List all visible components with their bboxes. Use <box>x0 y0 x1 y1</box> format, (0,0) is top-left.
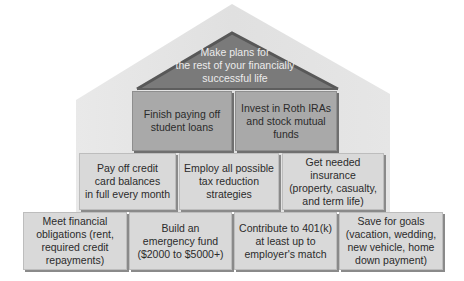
box-line: new vehicle, home <box>346 241 436 254</box>
box-line: Meet financial <box>36 215 114 228</box>
box-line: Invest in Roth IRAs <box>241 102 331 115</box>
box-line: Finish paying off <box>144 108 220 121</box>
roof-line: the rest of your financially <box>160 59 310 72</box>
box-roth-ira: Invest in Roth IRAs and stock mutual fun… <box>235 91 337 151</box>
box-save-for-goals: Save for goals (vacation, wedding, new v… <box>339 212 443 270</box>
roof-line: successful life <box>160 72 310 85</box>
box-financial-obligations: Meet financial obligations (rent, requir… <box>23 212 127 270</box>
box-credit-cards: Pay off credit card balances in full eve… <box>79 153 176 210</box>
box-line: student loans <box>144 121 220 134</box>
box-line: Save for goals <box>346 215 436 228</box>
box-insurance: Get needed insurance (property, casualty… <box>282 153 384 210</box>
box-401k: Contribute to 401(k) at least up to empl… <box>234 212 337 270</box>
box-line: Employ all possible <box>184 162 274 175</box>
box-line: employer's match <box>239 248 332 261</box>
box-tax-reduction: Employ all possible tax reduction strate… <box>179 153 279 210</box>
box-line: and stock mutual <box>241 115 331 128</box>
box-line: tax reduction <box>184 175 274 188</box>
box-line: repayments) <box>36 254 114 267</box>
box-line: card balances <box>85 175 170 188</box>
box-line: funds <box>241 128 331 141</box>
box-line: in full every month <box>85 188 170 201</box>
roof-goal-text: Make plans for the rest of your financia… <box>160 46 310 85</box>
box-line: emergency fund <box>137 235 223 248</box>
box-line: strategies <box>184 188 274 201</box>
box-student-loans: Finish paying off student loans <box>132 91 232 151</box>
box-line: and term life) <box>287 195 379 208</box>
box-line: Get needed insurance <box>287 156 379 182</box>
box-line: (vacation, wedding, <box>346 228 436 241</box>
box-line: obligations (rent, <box>36 228 114 241</box>
box-emergency-fund: Build an emergency fund ($2000 to $5000+… <box>129 212 232 270</box>
box-line: Build an <box>137 222 223 235</box>
box-line: (property, casualty, <box>287 182 379 195</box>
box-line: required credit <box>36 241 114 254</box>
box-line: Contribute to 401(k) <box>239 222 332 235</box>
box-line: Pay off credit <box>85 162 170 175</box>
box-line: at least up to <box>239 235 332 248</box>
box-line: down payment) <box>346 254 436 267</box>
roof-line: Make plans for <box>160 46 310 59</box>
box-line: ($2000 to $5000+) <box>137 248 223 261</box>
